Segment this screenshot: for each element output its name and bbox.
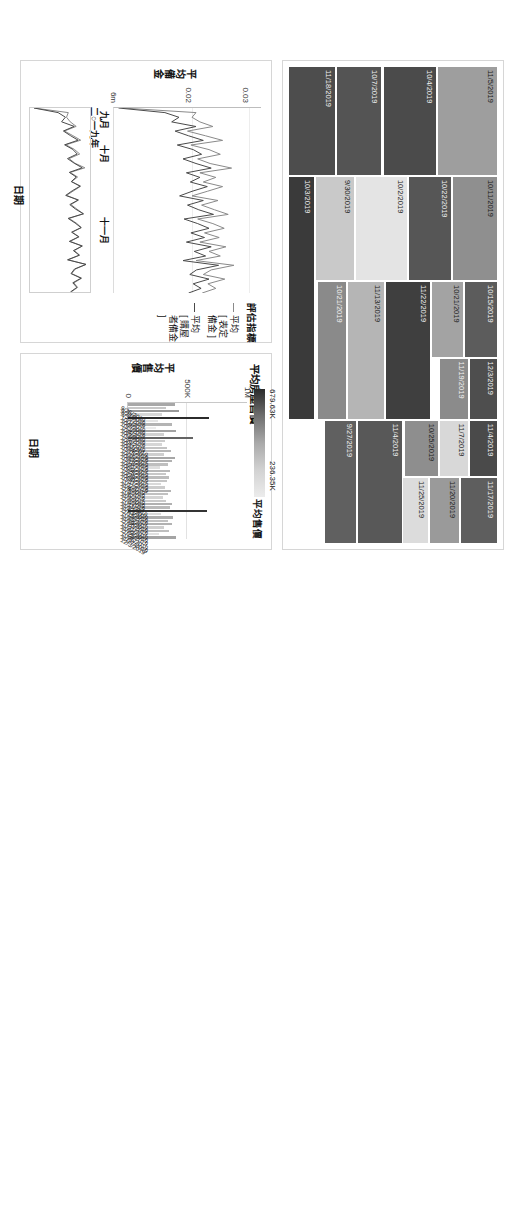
treemap-cell[interactable]: 11/18/2019 xyxy=(288,66,336,176)
treemap-cell-label: 10/15/2019 xyxy=(486,285,495,323)
treemap-cell[interactable]: 10/11/2019 xyxy=(452,176,498,281)
treemap-cell[interactable]: 10/21/2019 xyxy=(431,281,465,357)
treemap-cell-label: 10/25/2019 xyxy=(427,424,436,462)
treemap-cell-label: 11/19/2019 xyxy=(457,362,466,399)
treemap-cell[interactable]: 11/13/2019 xyxy=(347,281,385,420)
treemap-cell-label: 10/4/2019 xyxy=(425,70,434,103)
line-chart-legend-title: 評估指標 xyxy=(245,303,259,345)
legend-item-scheduled-reserve-label: 平均[ 表定備金 ] xyxy=(206,315,239,345)
treemap-cell-label: 11/4/2019 xyxy=(392,424,401,457)
bar-chart-y-tick-label: 500K xyxy=(184,379,193,398)
treemap-cell[interactable]: 11/7/2019 xyxy=(439,420,468,477)
line-chart-secondary-plot[interactable] xyxy=(29,107,91,293)
treemap[interactable]: 11/5/201910/11/201910/15/201912/3/201911… xyxy=(288,66,498,544)
line-chart-x-axis-title: 日期 xyxy=(12,185,27,205)
treemap-cell[interactable]: 9/27/2019 xyxy=(324,420,358,544)
line-chart-y-tick-label: 0.03 xyxy=(241,87,250,103)
line-chart-y-ticks: 0.030.026m xyxy=(113,81,263,105)
treemap-cell-label: 11/25/2019 xyxy=(417,481,426,518)
treemap-cell[interactable]: 12/3/2019 xyxy=(469,358,498,420)
treemap-cell-label: 11/13/2019 xyxy=(373,285,382,322)
treemap-cell-label: 11/18/2019 xyxy=(324,70,333,107)
bar-chart-y-tick-label: 1M xyxy=(243,387,252,398)
bar[interactable] xyxy=(128,403,175,405)
bar[interactable] xyxy=(128,407,166,409)
bar-chart-color-legend[interactable]: 平均售價 679.63K 236.35K xyxy=(249,389,265,539)
bar-chart-y-axis-title: 平均售價 xyxy=(131,362,175,374)
line-chart-secondary-series-group xyxy=(30,108,90,292)
line-chart-x-month-label: 十一月 xyxy=(98,217,111,244)
line-chart-panel[interactable]: 平均備金 0.030.026m 九月十月十一月 二○一九年 日期 評估指標 平均… xyxy=(20,60,272,343)
line-chart-series-group xyxy=(114,108,261,293)
gridline xyxy=(187,403,188,539)
bar-chart-x-axis-title: 日期 xyxy=(27,438,42,458)
treemap-cell-label: 10/22/2019 xyxy=(440,180,449,218)
treemap-cell-label: 11/17/2019 xyxy=(486,481,495,518)
legend-item-buyer-reserve-label: 平均[ 購屋者備金 ] xyxy=(156,315,200,345)
treemap-cell-label: 10/11/2019 xyxy=(486,180,495,217)
line-chart-y-axis-title: 平均備金 xyxy=(153,67,197,81)
treemap-cell-label: 11/4/2019 xyxy=(486,424,495,457)
treemap-cell[interactable]: 10/7/2019 xyxy=(336,66,382,176)
bar-chart-panel[interactable]: 平均房屋售價 平均售價 679.63K 236.35K 平均售價 1M500K0… xyxy=(20,353,272,550)
treemap-cell[interactable]: 10/2/2019 xyxy=(355,176,408,281)
treemap-cell[interactable]: 11/19/2019 xyxy=(439,358,468,420)
treemap-cell[interactable]: 11/17/2019 xyxy=(460,477,498,544)
bar-chart-legend-title: 平均售價 xyxy=(251,499,265,539)
treemap-cell-label: 12/3/2019 xyxy=(486,362,495,395)
legend-max-value: 679.63K xyxy=(268,389,277,419)
bar-chart-y-ticks: 1M500K0 xyxy=(127,374,247,400)
dashboard-canvas: 11/5/201910/11/201910/15/201912/3/201911… xyxy=(0,0,524,1214)
legend-item-buyer-reserve[interactable]: 平均[ 購屋者備金 ] xyxy=(156,303,200,345)
treemap-cell[interactable]: 9/30/2019 xyxy=(315,176,355,281)
treemap-cell-label: 10/3/2019 xyxy=(303,180,312,213)
treemap-cell-label: 11/5/2019 xyxy=(486,70,495,103)
treemap-cell-label: 11/7/2019 xyxy=(457,424,466,457)
line-chart-y-tick-label: 0.02 xyxy=(184,87,193,103)
treemap-cell-label: 9/30/2019 xyxy=(343,180,352,213)
legend-line-swatch-icon xyxy=(194,303,195,312)
treemap-cell[interactable]: 11/4/2019 xyxy=(357,420,403,544)
treemap-cell[interactable]: 10/3/2019 xyxy=(288,176,315,420)
treemap-cell-label: 11/20/2019 xyxy=(448,481,457,518)
treemap-cell-label: 10/21/2019 xyxy=(335,285,344,323)
treemap-cell[interactable]: 11/4/2019 xyxy=(469,420,498,477)
treemap-cell-label: 11/22/2019 xyxy=(419,285,428,322)
line-chart-plot[interactable] xyxy=(113,107,261,293)
treemap-cell[interactable]: 10/22/2019 xyxy=(408,176,452,281)
treemap-cell[interactable]: 11/22/2019 xyxy=(385,281,431,420)
treemap-panel[interactable]: 11/5/201910/11/201910/15/201912/3/201911… xyxy=(282,60,504,550)
treemap-cell[interactable]: 11/20/2019 xyxy=(429,477,461,544)
line-chart-legend[interactable]: 評估指標 平均[ 表定備金 ] 平均[ 購屋者備金 ] xyxy=(150,303,259,345)
treemap-cell[interactable]: 10/15/2019 xyxy=(464,281,498,357)
legend-line-swatch-icon xyxy=(233,303,234,312)
bar-chart-x-tick-labels: 9/26/20199/27/20199/30/201910/1/201910/2… xyxy=(55,402,125,545)
color-gradient-swatch xyxy=(254,389,265,497)
legend-item-scheduled-reserve[interactable]: 平均[ 表定備金 ] xyxy=(206,303,239,345)
treemap-cell[interactable]: 10/21/2019 xyxy=(317,281,346,420)
treemap-cell-label: 10/21/2019 xyxy=(452,285,461,323)
bar-chart-y-tick-label: 0 xyxy=(124,394,133,398)
line-chart-y-tick-label: 6m xyxy=(109,92,118,103)
treemap-cell[interactable]: 10/25/2019 xyxy=(404,420,440,477)
treemap-cell[interactable]: 11/5/2019 xyxy=(437,66,498,176)
line-series[interactable] xyxy=(34,108,86,292)
treemap-cell[interactable]: 10/4/2019 xyxy=(383,66,438,176)
legend-min-value: 236.35K xyxy=(268,461,277,491)
treemap-cell-label: 10/7/2019 xyxy=(371,70,380,103)
dashboard-stage: 11/5/201910/11/201910/15/201912/3/201911… xyxy=(0,0,524,1214)
treemap-cell-label: 10/2/2019 xyxy=(396,180,405,213)
treemap-cell-label: 9/27/2019 xyxy=(345,424,354,457)
